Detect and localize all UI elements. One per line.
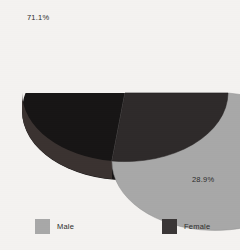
legend-item-male[interactable]: Male [35, 219, 74, 234]
legend-label-male: Male [57, 222, 74, 231]
legend-swatch-male [35, 219, 50, 234]
chart-legend: Male Female [0, 214, 240, 238]
pie-label-female: 28.9% [192, 175, 214, 184]
pie-top-face [112, 93, 240, 230]
legend-item-female[interactable]: Female [162, 219, 210, 234]
pie-chart-graphic [0, 0, 240, 250]
pie-label-male: 71.1% [27, 13, 49, 22]
legend-swatch-female [162, 219, 177, 234]
legend-label-female: Female [184, 222, 210, 231]
pie-chart: 71.1% 28.9% Male Female [0, 0, 240, 250]
